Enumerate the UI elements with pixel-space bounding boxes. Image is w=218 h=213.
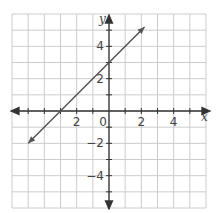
plotted-line bbox=[28, 27, 144, 143]
x-tick-label: 4 bbox=[170, 115, 178, 129]
y-tick-label: −4 bbox=[86, 169, 104, 183]
x-tick-label: 2 bbox=[73, 115, 81, 129]
y-tick-label: 4 bbox=[96, 39, 104, 53]
line-series bbox=[28, 27, 144, 143]
y-axis-label: y bbox=[98, 12, 106, 26]
x-tick-label: 2 bbox=[138, 115, 146, 129]
x-tick-label: 0 bbox=[99, 115, 107, 129]
y-axis-up-arrow-icon bbox=[106, 15, 113, 23]
x-axis-label: x bbox=[201, 110, 208, 124]
coordinate-plane: 202442−2−4 x y bbox=[0, 0, 218, 213]
axes bbox=[11, 15, 210, 209]
y-tick-label: −2 bbox=[86, 136, 104, 150]
